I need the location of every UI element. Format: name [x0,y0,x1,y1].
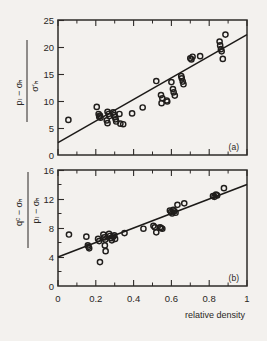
figure-root: pₗ − σₕ σ′ₕ 25 20 15 10 5 0 (a) qᶜ − σₕ [0,0,267,341]
panel-a-ytick-20: 20 [43,42,54,53]
panel-b-xtick-label: 0.8 [203,293,216,304]
panel-a-ytick-25: 25 [43,15,54,26]
panel-a-ytick-0: 0 [49,150,54,161]
x-axis-label: relative density [185,310,246,320]
panel-b-label: (b) [229,273,240,283]
panel-b-ylabel-numerator: qᶜ − σₕ [14,198,24,226]
panel-b-xtick-label: 0.4 [127,293,140,304]
panel-a-ylabel-numerator: pₗ − σₕ [14,79,24,106]
panel-a-ytick-15: 15 [43,69,54,80]
panel-b-xtick-label: 1 [244,293,249,304]
panel-b-xtick-label: 0.2 [89,293,102,304]
panel-b-ytick-0: 0 [49,281,54,292]
panel-b-xtick-label: 0 [55,293,60,304]
panel-a-ylabel-denominator: σ′ₕ [30,80,40,91]
panel-b-ytick-8: 8 [49,223,54,234]
panel-b-ytick-4: 4 [49,252,54,263]
panel-b-ylabel-denominator: pₗ − σₕ [31,197,41,224]
panel-b-ytick-12: 12 [43,194,54,205]
panel-a-ytick-10: 10 [43,96,54,107]
panel-b-ytick-16: 16 [43,165,54,176]
panel-a-label: (a) [229,142,240,152]
panel-b-xtick-label: 0.6 [165,293,178,304]
panel-a-ytick-5: 5 [49,123,54,134]
